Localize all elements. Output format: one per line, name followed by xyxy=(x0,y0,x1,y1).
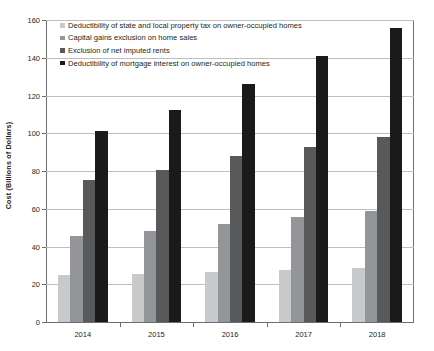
bar xyxy=(242,84,254,322)
legend-swatch-icon xyxy=(60,23,65,28)
bar xyxy=(95,131,107,322)
y-axis-tick-label: 100 xyxy=(14,129,40,138)
bar xyxy=(70,236,82,322)
bar xyxy=(144,231,156,322)
x-axis-tick-label: 2017 xyxy=(274,330,334,339)
bar xyxy=(390,28,402,322)
bar xyxy=(377,137,389,322)
legend-item: Capital gains exclusion on home sales xyxy=(60,32,302,45)
bar xyxy=(291,217,303,322)
bar-chart: Cost (Billions of Dollars) 0204060801001… xyxy=(0,0,434,351)
bar xyxy=(316,56,328,322)
legend-item: Exclusion of net imputed rents xyxy=(60,44,302,57)
x-axis-tick-mark xyxy=(267,322,268,327)
y-axis-tick-label: 140 xyxy=(14,53,40,62)
bar xyxy=(365,211,377,322)
legend-swatch-icon xyxy=(60,36,65,41)
legend-item-label: Deductibility of mortgage interest on ow… xyxy=(68,59,270,68)
legend-swatch-icon xyxy=(60,48,65,53)
y-axis-tick-label: 0 xyxy=(14,318,40,327)
y-axis-tick-label: 20 xyxy=(14,280,40,289)
x-axis-tick-mark xyxy=(340,322,341,327)
bar xyxy=(169,110,181,322)
bar xyxy=(132,274,144,322)
y-axis-tick-label: 120 xyxy=(14,91,40,100)
bar xyxy=(58,275,70,322)
legend-item-label: Capital gains exclusion on home sales xyxy=(68,33,197,42)
legend-item: Deductibility of mortgage interest on ow… xyxy=(60,57,302,70)
bar xyxy=(304,147,316,322)
bar xyxy=(205,272,217,322)
x-axis-tick-label: 2014 xyxy=(53,330,113,339)
bar xyxy=(218,224,230,322)
bar xyxy=(352,268,364,322)
y-axis-title-text: Cost (Billions of Dollars) xyxy=(5,121,14,209)
x-axis-tick-label: 2018 xyxy=(347,330,407,339)
y-axis-tick-label: 160 xyxy=(14,16,40,25)
legend-item-label: Deductibility of state and local propert… xyxy=(68,21,302,30)
legend-item: Deductibility of state and local propert… xyxy=(60,19,302,32)
bar xyxy=(230,156,242,322)
legend-swatch-icon xyxy=(60,61,65,66)
gridline xyxy=(46,322,414,323)
chart-legend: Deductibility of state and local propert… xyxy=(60,19,302,69)
y-axis-tick-label: 40 xyxy=(14,242,40,251)
y-axis-tick-label: 60 xyxy=(14,204,40,213)
legend-item-label: Exclusion of net imputed rents xyxy=(68,46,170,55)
bar xyxy=(83,180,95,322)
x-axis-tick-mark xyxy=(193,322,194,327)
x-axis-tick-label: 2016 xyxy=(200,330,260,339)
y-axis-tick-label: 80 xyxy=(14,167,40,176)
bar-group xyxy=(352,20,402,322)
bar xyxy=(156,170,168,322)
bar xyxy=(279,270,291,322)
x-axis-tick-label: 2015 xyxy=(126,330,186,339)
x-axis-tick-mark xyxy=(120,322,121,327)
